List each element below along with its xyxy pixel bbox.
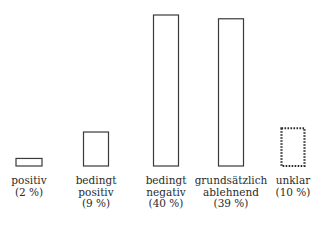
category-label: grundsätzlich bbox=[195, 174, 268, 186]
bar-grundsätzlich-ablehnend bbox=[219, 19, 244, 166]
bar-value-label: (40 %) bbox=[149, 197, 184, 209]
bar-positiv bbox=[16, 158, 42, 166]
category-label: ablehnend bbox=[203, 186, 259, 198]
category-label: negativ bbox=[146, 186, 186, 198]
labels-group: positiv(2 %)bedingtpositiv(9 %)bedingtne… bbox=[11, 174, 311, 209]
category-label: bedingt bbox=[146, 174, 187, 186]
category-label: bedingt bbox=[76, 174, 117, 186]
bar-bedingt-positiv bbox=[84, 132, 109, 166]
bar-unklar bbox=[282, 128, 305, 166]
category-label: positiv bbox=[78, 186, 113, 198]
bar-chart: positiv(2 %)bedingtpositiv(9 %)bedingtne… bbox=[0, 0, 319, 225]
category-label: unklar bbox=[276, 174, 312, 186]
bar-value-label: (10 %) bbox=[276, 186, 311, 198]
bars-group bbox=[16, 15, 305, 166]
category-label: positiv bbox=[11, 174, 46, 186]
bar-bedingt-negativ bbox=[154, 15, 179, 166]
bar-value-label: (39 %) bbox=[214, 197, 249, 209]
bar-value-label: (2 %) bbox=[15, 186, 43, 198]
bar-value-label: (9 %) bbox=[82, 197, 110, 209]
